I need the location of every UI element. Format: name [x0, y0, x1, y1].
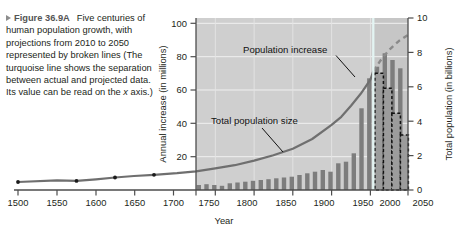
y2-tick-0: 0 [417, 184, 422, 195]
x-tick-1800: 1800 [237, 197, 258, 208]
y2-tick-10: 10 [417, 12, 427, 23]
y2-tick-4: 4 [417, 116, 422, 127]
x-tick-1550: 1550 [47, 197, 68, 208]
x-axis-ticklabels: 1500 1550 1600 1650 1700 1750 1800 1850 … [8, 197, 434, 208]
x-tick-2050: 2050 [413, 197, 434, 208]
y-axis-right-ticks [408, 18, 414, 190]
y-tick-40: 40 [177, 118, 187, 129]
y2-tick-2: 2 [417, 150, 422, 161]
y-axis-left-title: Annual increase (in millions) [157, 45, 168, 162]
y-tick-100: 100 [171, 18, 187, 29]
y-axis-right-ticklabels: 0 2 4 6 8 10 [417, 12, 427, 195]
x-axis-ticks [18, 190, 408, 196]
x-tick-2000: 2000 [380, 197, 401, 208]
x-tick-1750: 1750 [199, 197, 220, 208]
x-tick-1500: 1500 [8, 197, 29, 208]
y-axis-left-ticks [191, 23, 197, 156]
annotation-total-population-size: Total population size [211, 115, 298, 126]
y2-tick-8: 8 [417, 47, 422, 58]
x-axis-title: Year [215, 215, 234, 226]
y2-tick-6: 6 [417, 81, 422, 92]
x-tick-1850: 1850 [276, 197, 297, 208]
y-tick-20: 20 [177, 151, 187, 162]
x-tick-1950: 1950 [353, 197, 374, 208]
x-tick-1700: 1700 [163, 197, 184, 208]
x-tick-1600: 1600 [86, 197, 107, 208]
y-tick-60: 60 [177, 84, 187, 95]
y-axis-right-title: Total population (in billions) [443, 47, 454, 160]
population-growth-chart: Population increase Total population siz… [0, 0, 468, 239]
x-tick-1900: 1900 [314, 197, 335, 208]
y-axis-left-ticklabels: 100 80 60 40 20 [171, 18, 187, 162]
y-tick-80: 80 [177, 51, 187, 62]
x-tick-1650: 1650 [124, 197, 145, 208]
chart-svg: Population increase Total population siz… [0, 0, 468, 239]
annotation-population-increase: Population increase [243, 44, 327, 55]
